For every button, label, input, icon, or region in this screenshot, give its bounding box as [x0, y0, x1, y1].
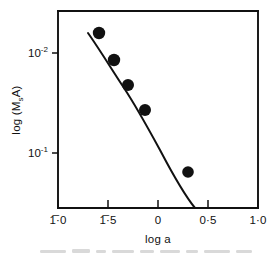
data-point — [122, 79, 134, 91]
data-point — [139, 104, 151, 116]
page-scan-smudge — [40, 249, 252, 253]
x-tick-label-1: 1̅·5 — [99, 214, 116, 226]
x-tick-label-4: 1·0 — [249, 214, 266, 226]
x-tick-label-2: 0 — [155, 214, 162, 226]
fit-curve — [88, 33, 195, 208]
scatter-plot: 10-2 10-1 1̅·0 1̅·5 0 0·5 1·0 log a log … — [0, 0, 277, 256]
x-axis-title: log a — [145, 233, 171, 245]
data-point — [108, 54, 120, 66]
data-point — [93, 27, 105, 39]
data-point — [182, 166, 194, 178]
y-tick-label-0: 10-2 — [28, 45, 48, 59]
x-tick-label-3: 0·5 — [199, 214, 216, 226]
y-axis-title: log (MsA) — [10, 85, 25, 134]
y-tick-label-1: 10-1 — [28, 145, 48, 159]
x-tick-label-0: 1̅·0 — [49, 214, 66, 226]
figure-panel: 10-2 10-1 1̅·0 1̅·5 0 0·5 1·0 log a log … — [0, 0, 277, 256]
